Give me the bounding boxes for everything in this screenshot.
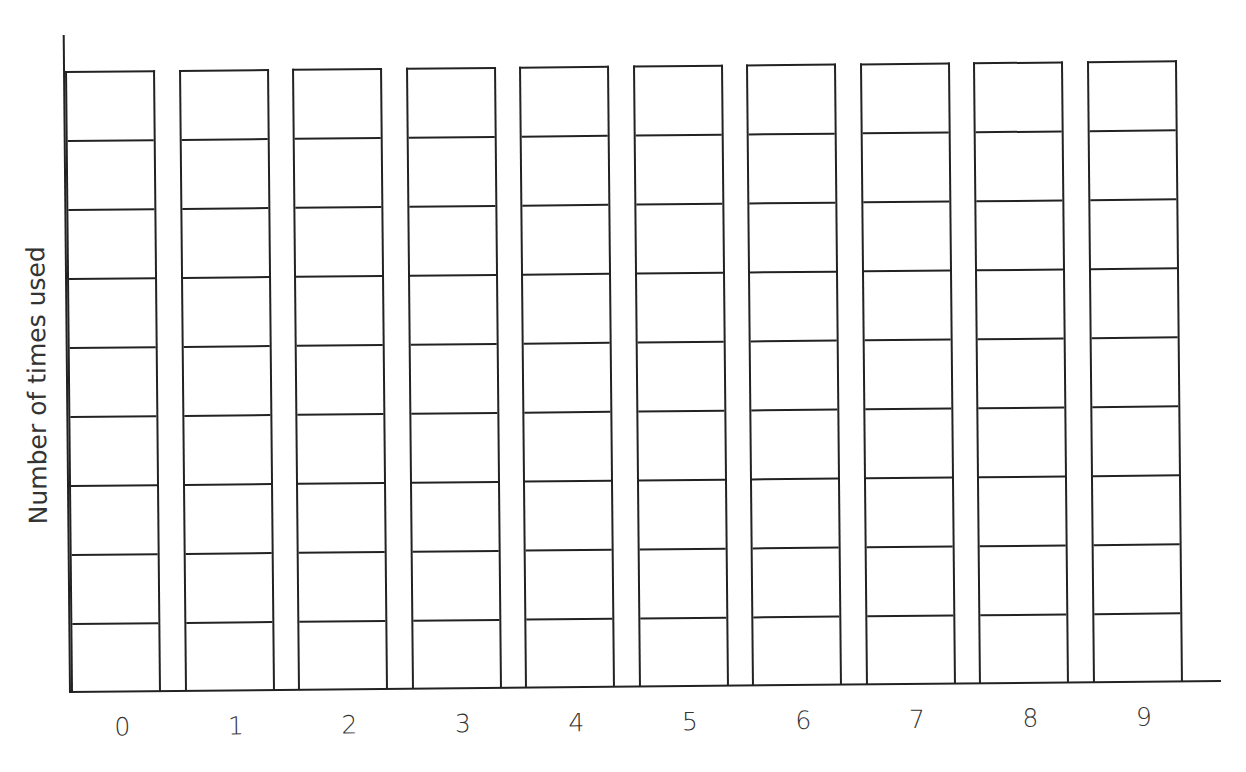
bar-cell [980,546,1067,616]
bar-cell [637,343,724,413]
bar-cell [523,275,610,345]
x-tick-label: 8 [985,703,1075,733]
bar-cell [524,413,611,483]
bar-cell [1093,545,1180,615]
y-axis-label: Number of times used [21,246,53,524]
bar-cell [1091,338,1178,408]
bar-cell [866,548,953,618]
bar-cell [1094,614,1181,682]
bar-cell [976,132,1063,202]
bar-cell [640,619,727,687]
bar-cell [750,273,837,343]
bar-graph-template: 0123456789 Number of times used [0,0,1246,772]
bar-cell [749,204,836,274]
bar-cell [862,65,949,135]
bar-cell [524,344,611,414]
bar-cell [181,71,268,141]
bar-cell [185,554,272,624]
bar-cell [295,139,382,209]
x-tick-label: 7 [872,704,962,734]
bar-cell [67,72,154,142]
x-tick-label: 3 [418,709,508,739]
bar-cell [408,69,495,139]
x-tick-label: 6 [758,706,848,736]
x-tick-labels: 0123456789 [0,0,1239,1]
x-tick-label: 1 [191,711,281,741]
bar-cell [299,553,386,623]
bar-cell [751,411,838,481]
bar-cell [68,141,155,211]
bar-cell [1092,407,1179,477]
bar-cell [635,67,722,137]
bar-cell [68,210,155,280]
bar-cell [182,209,269,279]
bar-column-7 [860,63,956,685]
bar-cell [865,479,952,549]
bar-cell [1089,62,1176,132]
bar-cell [181,140,268,210]
bar-cell [753,549,840,619]
bar-cell [409,207,496,277]
bar-cell [1090,200,1177,270]
bar-cell [298,484,385,554]
bar-cell [863,203,950,273]
bar-cell [299,622,386,690]
bar-cell [978,408,1065,478]
bar-cell [526,620,613,688]
bar-column-9 [1086,60,1182,682]
bar-columns [0,0,1239,1]
bar-cell [526,551,613,621]
bar-cell [296,277,383,347]
bar-cell [410,276,497,346]
bar-cell [522,137,609,207]
bar-cell [70,348,157,418]
bar-cell [635,136,722,206]
bar-cell [412,483,499,553]
bar-cell [294,70,381,140]
bar-cell [977,270,1064,340]
bar-cell [864,272,951,342]
bar-cell [980,615,1067,683]
bar-cell [753,618,840,686]
bar-cell [408,138,495,208]
bar-cell [639,481,726,551]
bar-column-3 [406,67,502,689]
bar-column-2 [292,68,388,690]
bar-cell [979,477,1066,547]
bar-cell [1089,131,1176,201]
x-tick-label: 9 [1099,702,1189,732]
x-tick-label: 5 [645,707,735,737]
bar-cell [69,279,156,349]
bar-column-0 [65,70,161,692]
x-tick-label: 2 [304,710,394,740]
bar-cell [636,205,723,275]
bar-cell [638,412,725,482]
bar-cell [751,342,838,412]
bar-cell [412,552,499,622]
bar-cell [975,63,1062,133]
bar-cell [639,550,726,620]
bar-cell [295,208,382,278]
bar-column-4 [519,66,615,688]
bar-cell [72,555,159,625]
bar-column-6 [746,64,842,686]
bar-cell [184,416,271,486]
bar-cell [749,135,836,205]
bar-cell [297,415,384,485]
bar-cell [183,347,270,417]
bar-cell [71,486,158,556]
bar-cell [865,410,952,480]
bar-column-5 [633,65,729,687]
bar-cell [410,345,497,415]
bar-column-1 [179,69,275,691]
bar-cell [862,134,949,204]
x-tick-label: 0 [77,712,167,742]
bar-cell [525,482,612,552]
bar-column-8 [973,61,1069,683]
bar-cell [185,485,272,555]
bar-cell [411,414,498,484]
bar-cell [522,206,609,276]
bar-cell [70,417,157,487]
bar-cell [867,617,954,685]
bar-cell [748,66,835,136]
